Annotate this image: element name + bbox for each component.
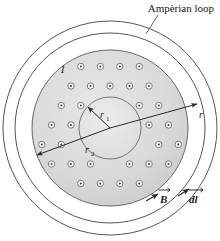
svg-text:dl: dl — [189, 193, 199, 205]
b-vector-overline-arrow — [159, 188, 170, 192]
svg-text:B: B — [159, 193, 167, 205]
svg-text:r: r — [85, 144, 89, 155]
svg-text:r: r — [100, 109, 104, 120]
r-label: r — [199, 109, 203, 120]
diagram-canvas: Ampèrian loop I r 1 r 2 r B dl — [0, 0, 220, 241]
dl-label: dl — [189, 188, 203, 205]
svg-text:1: 1 — [106, 115, 110, 123]
current-label-I: I — [60, 64, 65, 75]
coaxial-cable-diagram: Ampèrian loop I r 1 r 2 r B dl — [0, 0, 220, 241]
svg-text:2: 2 — [91, 150, 95, 158]
amperian-loop-label: Ampèrian loop — [148, 2, 215, 14]
